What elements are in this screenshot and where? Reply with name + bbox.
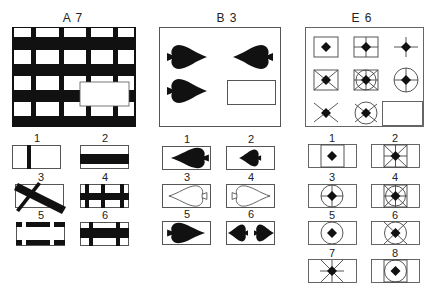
e6-options[interactable]	[309, 145, 420, 283]
e6-option-1-label: 1	[329, 133, 335, 144]
a7-option-5-label: 5	[38, 210, 44, 221]
figures-canvas	[0, 0, 432, 293]
b3-option-4-label: 4	[248, 172, 254, 183]
b3-option-6-label: 6	[248, 209, 254, 220]
a7-option-2-label: 2	[102, 133, 108, 144]
e6-option-8-label: 8	[392, 248, 398, 259]
b3-option-6	[227, 222, 275, 245]
raven-matrices-sheet: A 7 B 3 E 6	[0, 0, 432, 293]
e6-option-4	[372, 185, 420, 208]
e6-option-3	[309, 185, 357, 208]
e6-matrix	[306, 28, 424, 127]
e6-option-2-label: 2	[392, 133, 398, 144]
a7-option-1-label: 1	[34, 133, 40, 144]
a7-missing-piece	[80, 82, 129, 106]
b3-option-5	[163, 222, 211, 245]
b3-options[interactable]	[163, 147, 275, 245]
a7-option-6-label: 6	[102, 210, 108, 221]
a7-matrix	[12, 27, 136, 127]
b3-option-3	[163, 185, 211, 208]
e6-option-8	[372, 260, 420, 283]
e6-option-3-label: 3	[329, 172, 335, 183]
a7-option-4-label: 4	[102, 172, 108, 183]
a7-option-2	[80, 146, 129, 169]
b3-option-1-label: 1	[184, 134, 190, 145]
e6-option-4-label: 4	[392, 172, 398, 183]
e6-option-5-label: 5	[329, 210, 335, 221]
e6-option-2	[372, 145, 420, 168]
e6-missing-piece	[383, 102, 423, 126]
b3-option-5-label: 5	[184, 209, 190, 220]
b3-option-1	[163, 147, 211, 170]
b3-option-2-label: 2	[248, 134, 254, 145]
e6-option-6	[372, 222, 420, 245]
a7-option-6	[80, 222, 129, 246]
a7-option-4	[80, 184, 129, 208]
e6-option-7-label: 7	[329, 248, 335, 259]
a7-option-5	[16, 222, 65, 246]
b3-option-2	[227, 147, 275, 170]
b3-matrix	[160, 28, 281, 127]
b3-option-4	[227, 185, 275, 208]
e6-option-7	[309, 260, 357, 283]
a7-options[interactable]	[13, 145, 130, 246]
e6-option-5	[309, 222, 357, 245]
b3-missing-piece	[228, 81, 276, 105]
a7-option-3-label: 3	[38, 172, 44, 183]
e6-option-6-label: 6	[392, 210, 398, 221]
a7-option-1	[13, 145, 61, 169]
b3-option-3-label: 3	[184, 172, 190, 183]
e6-option-1	[309, 145, 357, 168]
